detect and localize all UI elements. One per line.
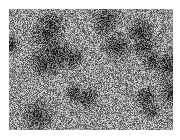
texture-image: [9, 9, 173, 130]
texture-canvas: [9, 9, 173, 130]
